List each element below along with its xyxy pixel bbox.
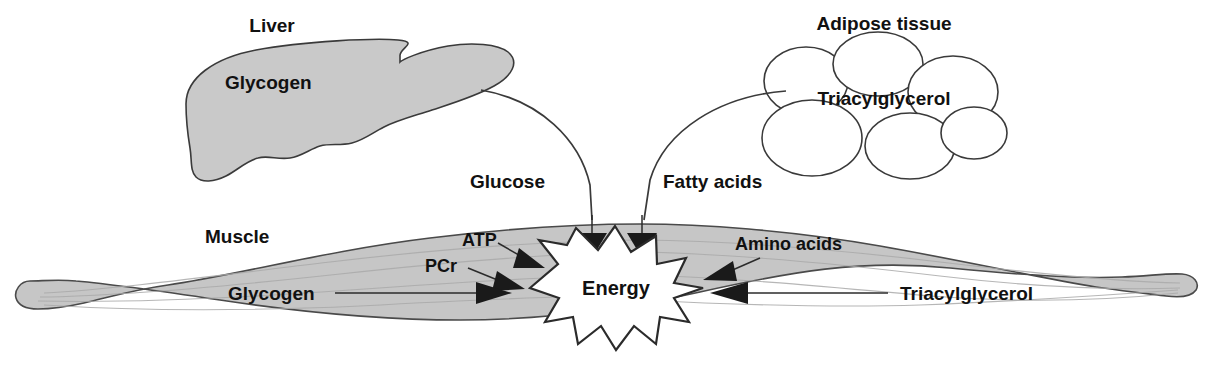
liver-name-label: Liver <box>249 15 295 36</box>
amino-acids-label: Amino acids <box>735 234 842 254</box>
adipose-triacylglycerol-label: Triacylglycerol <box>817 88 950 109</box>
glucose-conduit <box>481 90 592 220</box>
atp-label: ATP <box>462 230 497 250</box>
pcr-label: PCr <box>425 256 457 276</box>
muscle-glycogen-label: Glycogen <box>228 283 315 304</box>
liver-glycogen-label: Glycogen <box>225 72 312 93</box>
fatty-acids-label: Fatty acids <box>663 171 762 192</box>
glucose-label: Glucose <box>470 171 545 192</box>
fatty-acids-conduit <box>644 91 786 220</box>
energy-substrate-diagram: Liver Glycogen Adipose tissue Triacylgly… <box>0 0 1217 384</box>
adipose-group: Adipose tissue Triacylglycerol <box>762 13 1007 179</box>
adipocyte-6 <box>941 107 1007 159</box>
muscle-name-label: Muscle <box>205 226 269 247</box>
muscle-triacylglycerol-label: Triacylglycerol <box>900 283 1033 304</box>
energy-label: Energy <box>582 277 651 299</box>
adipose-name-label: Adipose tissue <box>816 13 951 34</box>
adipocyte-5 <box>865 113 955 179</box>
liver-group: Liver Glycogen <box>186 15 514 181</box>
liver-shape <box>186 39 514 181</box>
diagram-canvas: Liver Glycogen Adipose tissue Triacylgly… <box>0 0 1217 384</box>
adipocyte-4 <box>762 100 862 176</box>
